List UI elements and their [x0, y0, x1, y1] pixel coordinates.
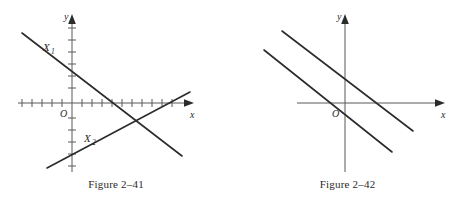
- figure-2-41-caption: Figure 2–41: [0, 178, 232, 190]
- curve-x1-label-sub: 1: [51, 47, 55, 56]
- figure-2-41-plot: y x O X 1 X 2: [0, 0, 232, 178]
- figure-page: y x O X 1 X 2 Figure 2–41: [0, 0, 463, 206]
- curve-x1-label-text: X: [42, 41, 51, 53]
- figure-2-42-plot: y x O: [232, 0, 463, 178]
- y-axis-label: y: [336, 11, 342, 22]
- figure-2-41-panel: y x O X 1 X 2 Figure 2–41: [0, 0, 232, 206]
- figure-2-42-caption: Figure 2–42: [232, 178, 463, 190]
- curve-x2-label-sub: 2: [92, 138, 96, 147]
- x-axis-label: x: [189, 109, 195, 120]
- y-axis-arrow-icon: [341, 14, 349, 24]
- origin-label: O: [60, 108, 67, 119]
- curve-x2-label-text: X: [83, 132, 92, 144]
- x-axis-label: x: [440, 109, 446, 120]
- origin-label: O: [332, 108, 339, 119]
- y-axis-arrow-icon: [68, 14, 76, 24]
- x-axis-arrow-icon: [435, 99, 445, 107]
- x-axis-arrow-icon: [184, 99, 194, 107]
- figure-2-42-panel: y x O Figure 2–42: [232, 0, 463, 206]
- y-axis-label: y: [63, 11, 69, 22]
